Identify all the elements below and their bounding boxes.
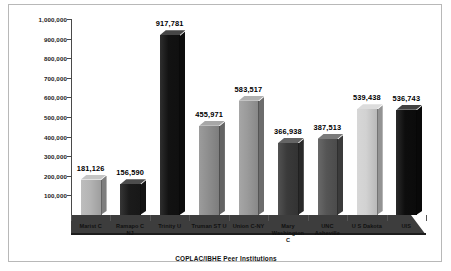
x-axis-tick-mark	[71, 215, 72, 221]
bar-front-face	[199, 126, 220, 215]
bar-column	[120, 184, 140, 215]
bar-front-face	[81, 180, 102, 216]
bar-front-face	[160, 35, 181, 215]
bar-column	[199, 126, 219, 215]
bar-data-label: 917,781	[144, 19, 196, 28]
bar-front-face	[318, 139, 339, 215]
x-axis-tick-mark	[189, 215, 190, 221]
bar-data-label: 536,743	[380, 94, 432, 103]
bar-column	[318, 139, 338, 215]
bar-column	[357, 109, 377, 215]
bar-front-face	[120, 184, 141, 215]
bar-front-face	[239, 101, 260, 215]
y-axis-tick-label: 1,000,000	[15, 16, 67, 23]
y-axis-tick-label: 800,000	[15, 55, 67, 62]
bar-column	[396, 110, 416, 215]
bar-front-face	[357, 109, 378, 215]
x-axis-tick-mark	[426, 215, 427, 221]
y-axis-tick-label: 100,000	[15, 192, 67, 199]
bar-column	[278, 143, 298, 215]
bar-column	[81, 180, 101, 216]
bar-series: 181,126156,590917,781455,971583,517366,9…	[71, 19, 426, 215]
bar-data-label: 455,971	[183, 110, 235, 119]
bar-data-label: 387,513	[301, 123, 353, 132]
bar-column	[160, 35, 180, 215]
plot-area: 1,000,000900,000800,000700,000600,000500…	[71, 19, 426, 215]
y-axis-tick-label: 700,000	[15, 74, 67, 81]
y-axis-tick-label: 600,000	[15, 94, 67, 101]
y-axis-tick-label: 400,000	[15, 133, 67, 140]
y-axis-tick-label: 900,000	[15, 35, 67, 42]
x-axis-title: COPLAC/IBHE Peer Institutions	[9, 255, 443, 262]
x-axis-tick-mark	[308, 215, 309, 221]
y-axis-tick-label: 200,000	[15, 172, 67, 179]
x-axis-tick-mark	[110, 215, 111, 221]
y-axis-tick-label: 500,000	[15, 114, 67, 121]
bar-front-face	[396, 110, 417, 215]
x-axis-tick-labels: Marist CRamapo CNJTrinity UTruman ST UUn…	[71, 223, 426, 253]
x-axis-tick-mark	[229, 215, 230, 221]
bar-data-label: 156,590	[104, 168, 156, 177]
bar-data-label: 583,517	[223, 85, 275, 94]
x-axis-tick-label: UIS	[382, 223, 430, 230]
bar-column	[239, 101, 259, 215]
y-axis-tick-label: 300,000	[15, 153, 67, 160]
chart-frame: 1,000,000900,000800,000700,000600,000500…	[8, 4, 442, 262]
x-axis-tick-mark	[150, 215, 151, 221]
bar-front-face	[278, 143, 299, 215]
x-axis-tick-mark	[347, 215, 348, 221]
x-axis-tick-mark	[268, 215, 269, 221]
x-axis-tick-mark	[387, 215, 388, 221]
